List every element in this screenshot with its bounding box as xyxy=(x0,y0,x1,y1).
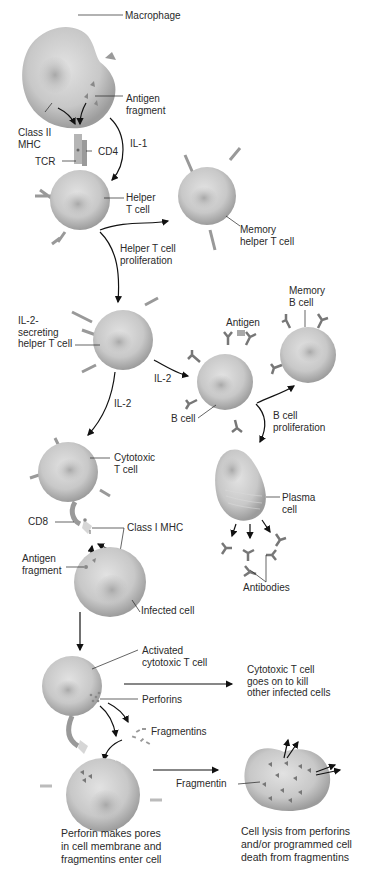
label-fragmentins: Fragmentins xyxy=(151,726,207,738)
activated-cytotoxic-t-cell xyxy=(42,650,138,754)
label-class-i-mhc: Class I MHC xyxy=(127,522,183,534)
label-memory-b-cell: Memory B cell xyxy=(289,285,325,308)
memory-b-cell xyxy=(271,310,336,383)
label-helper-t-proliferation: Helper T cell proliferation xyxy=(120,243,176,266)
immune-response-diagram xyxy=(0,0,365,884)
caption-right: Cell lysis from perforins and/or program… xyxy=(241,825,352,864)
plasma-cell xyxy=(215,449,280,520)
label-il1: IL-1 xyxy=(130,138,147,150)
label-class-ii-mhc: Class II MHC xyxy=(18,127,51,150)
proliferation-arrow xyxy=(100,232,119,302)
label-il2-down: IL-2 xyxy=(114,398,131,410)
il2-down-arrow xyxy=(88,372,115,435)
to-memory-arrow xyxy=(100,221,168,230)
caption-left: Perforin makes pores in cell membrane an… xyxy=(61,827,161,866)
label-b-cell: B cell xyxy=(171,413,195,425)
label-cd8: CD8 xyxy=(28,516,48,528)
label-infected-cell: Infected cell xyxy=(141,605,194,617)
label-antigen-fragment-top: Antigen fragment xyxy=(126,93,165,116)
label-cd4: CD4 xyxy=(98,146,118,158)
label-perforins: Perforins xyxy=(142,694,182,706)
memory-helper-t-cell xyxy=(178,148,240,250)
cytotoxic-t-cell xyxy=(30,438,110,502)
label-plasma-cell: Plasma cell xyxy=(282,492,315,515)
label-fragmentin: Fragmentin xyxy=(176,778,227,790)
label-il2-secreting-helper: IL-2- secreting helper T cell xyxy=(18,315,72,350)
cd8-class-i-mhc xyxy=(55,502,124,552)
label-il2-right: IL-2 xyxy=(154,373,171,385)
il2-secreting-helper-t-cell xyxy=(72,298,158,372)
label-tcr: TCR xyxy=(35,156,56,168)
label-antigen-fragment-mid: Antigen fragment xyxy=(22,553,61,576)
lysed-cell xyxy=(238,740,340,811)
label-memory-helper-t-cell: Memory helper T cell xyxy=(240,224,294,247)
fragmentins-particles xyxy=(132,728,150,745)
label-antigen: Antigen xyxy=(226,317,260,329)
antibodies xyxy=(222,520,286,582)
infected-cell xyxy=(66,544,146,617)
label-b-cell-proliferation: B cell proliferation xyxy=(273,410,325,433)
to-memory-b-arrow xyxy=(257,386,294,403)
perforin-arrows xyxy=(100,703,128,760)
label-helper-t-cell: Helper T cell xyxy=(126,192,155,215)
target-cell-pores xyxy=(40,756,162,832)
label-goes-on: Cytotoxic T cell goes on to kill other i… xyxy=(247,664,330,699)
label-antibodies: Antibodies xyxy=(243,582,290,594)
helper-t-cell xyxy=(35,170,124,244)
label-macrophage: Macrophage xyxy=(125,10,181,22)
to-plasma-arrow xyxy=(256,404,265,442)
label-activated-cytotoxic: Activated cytotoxic T cell xyxy=(142,645,207,668)
label-cytotoxic-t-cell: Cytotoxic T cell xyxy=(114,452,155,475)
macrophage-cell xyxy=(22,15,123,128)
b-cell xyxy=(186,330,256,432)
